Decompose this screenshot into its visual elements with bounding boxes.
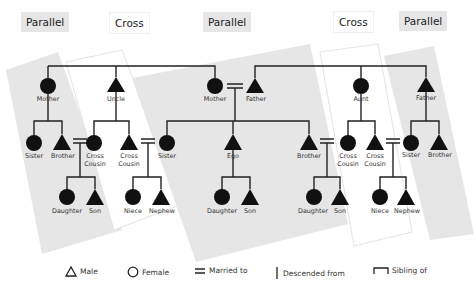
legend-married-label: Married to	[209, 266, 247, 275]
double-line-icon	[194, 267, 206, 275]
label-niece-1: Niece	[124, 207, 142, 215]
label-brother-right: Brother	[428, 151, 452, 159]
circle-outline-icon	[127, 266, 139, 278]
legend-female: Female	[127, 266, 169, 278]
legend-descended: Descended from	[275, 266, 345, 280]
label-son-2: Son	[244, 207, 256, 215]
header-parallel-2: Parallel	[203, 12, 251, 32]
header-parallel-3: Parallel	[399, 11, 447, 31]
label-father-mid: Father	[246, 95, 266, 103]
sister-mid-female-icon	[159, 135, 175, 151]
label-cross-cousin-4b: Cousin	[364, 160, 386, 168]
label-sister-right: Sister	[402, 151, 421, 159]
label-sister-left: Sister	[25, 152, 44, 160]
legend-female-label: Female	[142, 268, 169, 277]
label-nephew-1: Nephew	[149, 207, 175, 215]
kinship-diagram: Mother Uncle Mother Father Aunt Father S…	[0, 0, 476, 294]
label-nephew-2: Nephew	[394, 207, 420, 215]
label-ego: Ego	[227, 152, 239, 160]
legend-male: Male	[65, 266, 98, 277]
legend-sibling-label: Sibling of	[392, 266, 427, 275]
label-sister-mid: Sister	[158, 152, 177, 160]
label-cross-cousin-4: Cross	[366, 152, 384, 160]
sister-left-female-icon	[26, 135, 42, 151]
label-daughter-1: Daughter	[52, 207, 82, 215]
bracket-icon	[373, 266, 389, 275]
label-mother-left: Mother	[37, 95, 60, 103]
header-cross-2: Cross	[333, 11, 374, 33]
label-brother-left: Brother	[51, 152, 75, 160]
label-daughter-3: Daughter	[298, 207, 328, 215]
label-aunt: Aunt	[354, 95, 369, 103]
label-cross-cousin-2: Cross	[120, 152, 138, 160]
triangle-outline-icon	[65, 266, 77, 277]
mother-mid-female-icon	[207, 78, 223, 94]
label-niece-2: Niece	[371, 207, 389, 215]
aunt-female-icon	[353, 78, 369, 94]
legend-male-label: Male	[80, 267, 98, 276]
label-son-1: Son	[89, 207, 101, 215]
vertical-line-icon	[275, 266, 280, 280]
label-cross-cousin-1b: Cousin	[84, 160, 106, 168]
label-uncle: Uncle	[107, 95, 125, 103]
header-cross-1: Cross	[109, 12, 150, 34]
label-cross-cousin-3b: Cousin	[337, 160, 359, 168]
cross-cousin-1-female-icon	[86, 135, 102, 151]
legend: Male Female Married to Descended from Si…	[0, 266, 476, 282]
label-son-3: Son	[334, 207, 346, 215]
label-mother-mid: Mother	[204, 95, 227, 103]
daughter-2-female-icon	[214, 189, 230, 205]
label-cross-cousin-2b: Cousin	[118, 160, 140, 168]
daughter-1-female-icon	[59, 189, 75, 205]
legend-sibling: Sibling of	[373, 266, 427, 275]
label-father-right: Father	[416, 94, 436, 102]
cross-cousin-3-female-icon	[340, 135, 356, 151]
sister-right-female-icon	[403, 135, 419, 151]
label-cross-cousin-1: Cross	[86, 152, 104, 160]
label-daughter-2: Daughter	[207, 207, 237, 215]
label-brother-mid: Brother	[297, 152, 321, 160]
legend-descended-label: Descended from	[283, 269, 345, 278]
niece-2-female-icon	[372, 189, 388, 205]
legend-married: Married to	[194, 266, 247, 275]
niece-1-female-icon	[125, 189, 141, 205]
label-cross-cousin-3: Cross	[339, 152, 357, 160]
mother-left-female-icon	[40, 78, 56, 94]
header-parallel-1: Parallel	[21, 12, 69, 32]
daughter-3-female-icon	[306, 189, 322, 205]
